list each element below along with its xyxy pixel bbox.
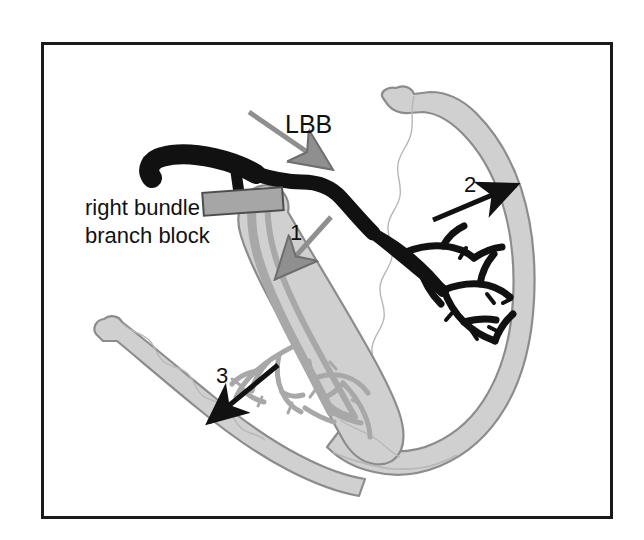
rbbb-label-line-2: branch block [85, 223, 211, 248]
lb-purkinje-8 [464, 319, 496, 322]
lbb-label: LBB [285, 110, 332, 138]
arrow-3-label: 3 [216, 363, 228, 388]
arrow-1-label: 1 [290, 220, 302, 245]
arrow-2-label: 2 [464, 172, 476, 197]
block-bar [202, 187, 283, 216]
figure-root: LBB right bundle branch block 1 2 3 [0, 0, 644, 540]
conduction-diagram: LBB right bundle branch block 1 2 3 [0, 0, 644, 540]
rbbb-label-line-1: right bundle [85, 195, 200, 220]
